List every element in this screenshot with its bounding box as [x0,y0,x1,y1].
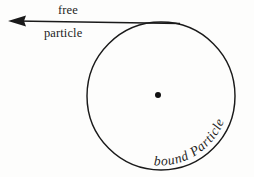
bound-particle-label-text: bound Particle [154,116,227,169]
diagram-canvas: free particle bound Particle [0,0,254,177]
free-label-line1: free [58,3,78,17]
bound-particle-label: bound Particle [154,116,227,169]
orbit-circle [87,22,235,170]
physics-diagram: free particle bound Particle [0,0,254,177]
arrow-head-icon [8,16,26,27]
free-label-line2: particle [44,26,83,40]
center-dot [155,92,161,98]
